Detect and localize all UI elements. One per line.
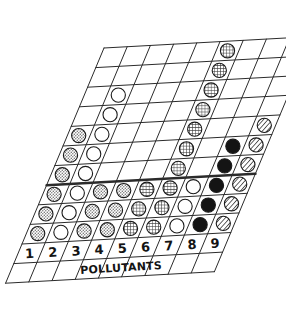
cell-marker-stipple-col1	[72, 128, 86, 142]
cell-marker-solid-col8	[226, 139, 240, 153]
data-markers	[31, 44, 272, 241]
pollutants-pictogram-chart: 123456789POLLUTANTS	[0, 0, 286, 315]
cell-marker-open-col2	[78, 166, 92, 180]
cell-marker-solid-col8	[201, 198, 215, 212]
cell-marker-mesh-col5	[132, 202, 146, 216]
column-label-3: 3	[71, 243, 81, 258]
cell-marker-solid-col8	[209, 178, 223, 192]
figure-canvas: 123456789POLLUTANTS	[0, 0, 286, 315]
cell-marker-open-col2	[87, 147, 101, 161]
cell-marker-open-col2	[103, 108, 117, 122]
cell-marker-mesh-col6	[179, 142, 193, 156]
axis-labels: 123456789POLLUTANTS	[25, 236, 220, 277]
cell-marker-mesh-col6	[220, 44, 234, 58]
grid-row-line-8	[88, 76, 286, 87]
cell-marker-hatch-col9	[257, 118, 271, 132]
column-label-1: 1	[25, 246, 35, 261]
cell-marker-hatch-col9	[233, 177, 247, 191]
column-label-8: 8	[187, 237, 197, 252]
cell-marker-open-col7	[178, 199, 192, 213]
column-label-5: 5	[117, 241, 127, 256]
cell-marker-solid-col8	[218, 159, 232, 173]
cell-marker-stipple-col1	[39, 207, 53, 221]
cell-marker-solid-col8	[193, 218, 207, 232]
x-axis-title: POLLUTANTS	[80, 259, 162, 277]
cell-marker-mesh-col6	[204, 83, 218, 97]
cell-marker-mesh-col6	[212, 63, 226, 77]
column-label-2: 2	[48, 244, 58, 259]
column-label-7: 7	[164, 238, 174, 253]
cell-marker-stipple-col3	[85, 204, 99, 218]
grid-row-line-4	[55, 154, 264, 165]
cell-marker-mesh-col6	[188, 122, 202, 136]
cell-marker-open-col2	[70, 186, 84, 200]
cell-marker-hatch-col9	[216, 216, 230, 230]
cell-marker-stipple-col4	[117, 183, 131, 197]
cell-marker-open-col7	[186, 180, 200, 194]
cell-marker-mesh-col5	[123, 221, 137, 235]
cell-marker-open-col2	[95, 127, 109, 141]
cell-marker-hatch-col9	[249, 138, 263, 152]
column-label-9: 9	[210, 236, 220, 251]
column-label-6: 6	[141, 239, 151, 254]
cell-marker-stipple-col1	[31, 226, 45, 240]
cell-marker-stipple-col1	[63, 148, 77, 162]
cell-marker-stipple-col4	[100, 223, 114, 237]
cell-marker-stipple-col1	[55, 168, 69, 182]
cell-marker-stipple-col3	[77, 224, 91, 238]
cell-marker-open-col2	[54, 225, 68, 239]
cell-marker-hatch-col9	[224, 197, 238, 211]
cell-marker-mesh-col5	[140, 182, 154, 196]
cell-marker-mesh-col6	[147, 220, 161, 234]
grid-row-line-6	[71, 115, 280, 126]
cell-marker-open-col2	[111, 88, 125, 102]
cell-marker-mesh-col6	[155, 200, 169, 214]
cell-marker-open-col2	[62, 206, 76, 220]
column-label-4: 4	[94, 242, 104, 257]
cell-marker-hatch-col9	[241, 157, 255, 171]
cell-marker-stipple-col1	[47, 187, 61, 201]
cell-marker-stipple-col4	[108, 203, 122, 217]
cell-marker-stipple-col3	[93, 185, 107, 199]
grid-row-line-7	[79, 95, 286, 106]
grid-row-line-5	[63, 135, 272, 146]
cell-marker-open-col7	[170, 219, 184, 233]
cell-marker-mesh-col6	[163, 181, 177, 195]
cell-marker-mesh-col6	[196, 102, 210, 116]
cell-marker-mesh-col6	[171, 161, 185, 175]
